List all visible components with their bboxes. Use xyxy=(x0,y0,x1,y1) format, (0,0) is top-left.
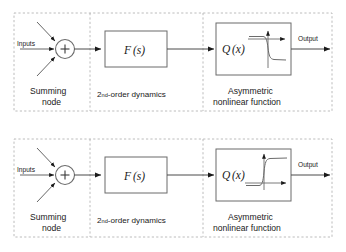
nonlinear-block-label: Q xyxy=(222,169,231,181)
dynamics-block-label-arg: (s) xyxy=(133,170,145,183)
dynamics-block-label-arg: (s) xyxy=(133,44,145,57)
dynamics-block-label: F xyxy=(123,44,132,56)
output-label: Output xyxy=(298,35,318,43)
block-diagram-top: Inputs Summing node F (s) 2nd-order dyna… xyxy=(0,0,346,126)
summing-node-caption-line1: Summing xyxy=(30,86,67,96)
figure-canvas: Inputs Summing node F (s) 2nd-order dyna… xyxy=(0,0,346,252)
dynamics-caption: 2nd-order dynamics xyxy=(97,216,166,225)
summing-node-caption-line2: node xyxy=(42,97,61,107)
nonlinear-block-label-arg: (x) xyxy=(232,169,245,182)
nonlinear-caption-line2: nonlinear function xyxy=(213,223,281,233)
dynamics-block-label: F xyxy=(123,170,132,182)
inputs-label: Inputs xyxy=(17,40,36,48)
input-arrow-lower xyxy=(37,57,55,76)
nonlinear-caption-line1: Asymmetric xyxy=(228,212,274,222)
input-arrow-upper xyxy=(37,148,55,167)
nonlinear-caption-line2: nonlinear function xyxy=(213,97,281,107)
inputs-label: Inputs xyxy=(17,166,36,174)
dynamics-caption-suffix: -order dynamics xyxy=(108,90,166,99)
summing-node-caption-line2: node xyxy=(42,223,61,233)
dynamics-caption-suffix: -order dynamics xyxy=(108,216,166,225)
block-diagram-bottom: Inputs Summing node F (s) 2nd-order dyna… xyxy=(0,126,346,252)
nonlinear-block-label: Q xyxy=(222,43,231,55)
input-arrow-upper xyxy=(37,22,55,41)
dynamics-caption: 2nd-order dynamics xyxy=(97,90,166,99)
summing-node-caption-line1: Summing xyxy=(30,212,67,222)
output-label: Output xyxy=(298,161,318,169)
nonlinear-caption-line1: Asymmetric xyxy=(228,86,274,96)
nonlinear-block-label-arg: (x) xyxy=(232,43,245,56)
input-arrow-lower xyxy=(37,183,55,202)
